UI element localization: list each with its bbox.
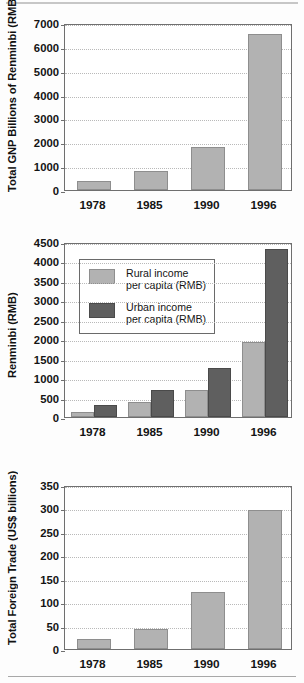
y-axis-tick-label: 2000 <box>34 334 59 346</box>
bar <box>151 390 174 417</box>
y-axis-tick-mark <box>61 322 65 323</box>
legend-swatch-rural-icon <box>89 269 115 284</box>
bar <box>265 249 288 417</box>
gridline <box>65 283 291 285</box>
legend-label-rural-line2: per capita (RMB) <box>126 279 206 291</box>
y-axis-tick-mark <box>61 380 65 381</box>
y-axis-tick-mark <box>61 341 65 342</box>
y-axis-tick-label: 4000 <box>34 90 59 102</box>
legend-swatch-urban-icon <box>89 303 115 318</box>
y-axis-tick-label: 3000 <box>34 295 59 307</box>
bar <box>248 510 282 649</box>
y-axis-tick-label: 4000 <box>34 256 59 268</box>
bottom-divider-rule <box>8 676 296 677</box>
chart-trade-ylabel: Total Foreign Trade (US$ billions) <box>6 485 22 645</box>
figure-page: Total GNP Billions of Renminbi (RMB) 010… <box>0 0 304 683</box>
chart-total-gnp-plot-area <box>64 24 292 191</box>
bar <box>191 592 225 649</box>
y-axis-tick-mark <box>61 49 65 50</box>
y-axis-tick-mark <box>61 302 65 303</box>
x-axis-tick-label: 1985 <box>120 198 180 212</box>
y-axis-tick-mark <box>61 651 65 652</box>
gridline <box>65 244 291 246</box>
x-axis-tick-label: 1978 <box>63 198 123 212</box>
x-axis-tick-label: 1985 <box>120 425 180 439</box>
bar <box>94 405 117 417</box>
bar <box>208 368 231 417</box>
y-axis-tick-label: 500 <box>40 393 59 405</box>
y-axis-tick-label: 100 <box>40 597 59 609</box>
chart-income-plot-area: Rural income per capita (RMB) Urban inco… <box>64 243 292 418</box>
gridline <box>65 25 291 27</box>
y-axis-tick-label: 150 <box>40 574 59 586</box>
y-axis-tick-label: 1000 <box>34 373 59 385</box>
y-axis-tick-label: 6000 <box>34 42 59 54</box>
bar <box>134 171 168 190</box>
y-axis-tick-mark <box>61 73 65 74</box>
y-axis-tick-label: 4500 <box>34 237 59 249</box>
y-axis-tick-mark <box>61 263 65 264</box>
y-axis-tick-mark <box>61 283 65 284</box>
y-axis-tick-label: 2000 <box>34 137 59 149</box>
legend-label-rural-line1: Rural income <box>126 267 206 279</box>
y-axis-tick-label: 0 <box>53 412 59 424</box>
y-axis-tick-mark <box>61 25 65 26</box>
y-axis-tick-mark <box>61 400 65 401</box>
y-axis-tick-mark <box>61 487 65 488</box>
gridline <box>65 487 291 489</box>
gridline <box>65 302 291 304</box>
bar <box>77 639 111 649</box>
bar <box>71 412 94 417</box>
y-axis-tick-label: 3500 <box>34 276 59 288</box>
gridline <box>65 263 291 265</box>
chart-total-gnp-ylabel: Total GNP Billions of Renminbi (RMB) <box>6 22 22 192</box>
bar <box>134 629 168 649</box>
y-axis-tick-mark <box>61 604 65 605</box>
gridline <box>65 322 291 324</box>
y-axis-tick-label: 3000 <box>34 113 59 125</box>
y-axis-tick-mark <box>61 361 65 362</box>
bar <box>242 342 265 417</box>
bar <box>128 402 151 417</box>
y-axis-tick-label: 300 <box>40 503 59 515</box>
y-axis-tick-label: 1000 <box>34 161 59 173</box>
x-axis-tick-label: 1978 <box>63 657 123 671</box>
x-axis-tick-label: 1990 <box>177 425 237 439</box>
y-axis-tick-mark <box>61 419 65 420</box>
y-axis-tick-mark <box>61 192 65 193</box>
y-axis-tick-label: 0 <box>53 185 59 197</box>
chart-income-ylabel: Renminbi (RMB) <box>6 253 22 418</box>
chart-trade-plot-area <box>64 486 292 650</box>
bar <box>248 34 282 190</box>
chart-total-foreign-trade: Total Foreign Trade (US$ billions) 05010… <box>0 459 304 679</box>
y-axis-tick-mark <box>61 168 65 169</box>
x-axis-tick-label: 1996 <box>234 425 294 439</box>
y-axis-tick-mark <box>61 557 65 558</box>
y-axis-tick-mark <box>61 244 65 245</box>
y-axis-tick-mark <box>61 581 65 582</box>
x-axis-tick-label: 1990 <box>177 198 237 212</box>
bar <box>185 390 208 417</box>
legend-item-rural: Rural income per capita (RMB) <box>89 267 206 292</box>
x-axis-tick-label: 1978 <box>63 425 123 439</box>
y-axis-tick-label: 350 <box>40 480 59 492</box>
bar <box>77 181 111 190</box>
bar <box>191 147 225 190</box>
y-axis-tick-label: 5000 <box>34 66 59 78</box>
y-axis-tick-mark <box>61 120 65 121</box>
x-axis-tick-label: 1985 <box>120 657 180 671</box>
x-axis-tick-label: 1990 <box>177 657 237 671</box>
x-axis-tick-label: 1996 <box>234 657 294 671</box>
y-axis-tick-label: 1500 <box>34 354 59 366</box>
y-axis-tick-label: 2500 <box>34 315 59 327</box>
y-axis-tick-label: 0 <box>53 644 59 656</box>
chart-income-per-capita: Renminbi (RMB) Rural income per capita (… <box>0 228 304 454</box>
y-axis-tick-label: 200 <box>40 550 59 562</box>
y-axis-tick-mark <box>61 97 65 98</box>
y-axis-tick-label: 250 <box>40 527 59 539</box>
y-axis-tick-label: 50 <box>46 621 59 633</box>
y-axis-tick-mark <box>61 144 65 145</box>
chart-total-gnp: Total GNP Billions of Renminbi (RMB) 010… <box>0 0 304 225</box>
x-axis-tick-label: 1996 <box>234 198 294 212</box>
y-axis-tick-mark <box>61 510 65 511</box>
